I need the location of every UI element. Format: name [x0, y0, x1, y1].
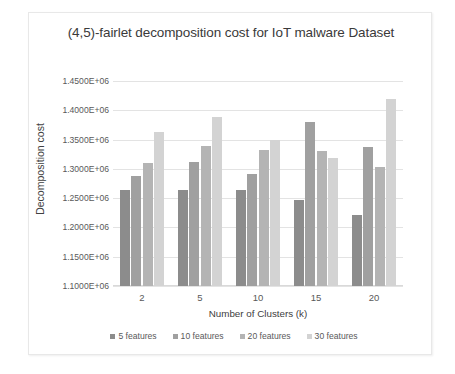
legend-swatch-icon [240, 334, 245, 339]
y-axis-tick-label: 1.1500E+06 [29, 252, 109, 262]
bar[interactable] [189, 162, 199, 286]
bar[interactable] [352, 215, 362, 286]
y-axis-tick-label: 1.1000E+06 [29, 281, 109, 291]
bar-group: 2 [120, 81, 165, 286]
legend-swatch-icon [307, 334, 312, 339]
y-axis-tick-label: 1.3500E+06 [29, 135, 109, 145]
x-axis-tick-label: 15 [311, 292, 322, 303]
legend-label: 20 features [248, 331, 291, 341]
bar[interactable] [375, 167, 385, 286]
legend-item[interactable]: 10 features [173, 331, 224, 341]
bar[interactable] [236, 190, 246, 286]
x-axis-tick-label: 5 [197, 292, 202, 303]
legend-swatch-icon [173, 334, 178, 339]
bar[interactable] [178, 190, 188, 286]
bar-group: 10 [236, 81, 281, 286]
legend-item[interactable]: 5 features [110, 331, 156, 341]
bar[interactable] [143, 163, 153, 286]
y-axis-tick-label: 1.2500E+06 [29, 193, 109, 203]
bar[interactable] [259, 150, 269, 286]
y-axis-tick-label: 1.2000E+06 [29, 222, 109, 232]
legend-item[interactable]: 30 features [307, 331, 358, 341]
bar[interactable] [363, 147, 373, 286]
gridline [113, 286, 403, 287]
bar[interactable] [317, 151, 327, 286]
bar[interactable] [294, 200, 304, 286]
y-axis-tick-label: 1.3000E+06 [29, 164, 109, 174]
bar[interactable] [328, 158, 338, 286]
bar-group: 5 [178, 81, 223, 286]
legend-item[interactable]: 20 features [240, 331, 291, 341]
bar[interactable] [201, 146, 211, 286]
x-axis-title: Number of Clusters (k) [113, 308, 403, 319]
bar[interactable] [154, 132, 164, 286]
legend-swatch-icon [110, 334, 115, 339]
plot-area: 1.4500E+061.4000E+061.3500E+061.3000E+06… [113, 81, 403, 286]
legend-label: 10 features [181, 331, 224, 341]
x-axis-tick-label: 20 [369, 292, 380, 303]
bar[interactable] [131, 176, 141, 286]
bar[interactable] [270, 140, 280, 286]
bar[interactable] [212, 117, 222, 286]
bar-group: 15 [294, 81, 339, 286]
y-axis-tick-label: 1.4500E+06 [29, 76, 109, 86]
bar[interactable] [120, 190, 130, 286]
bar-groups: 25101520 [113, 81, 403, 286]
legend-label: 30 features [315, 331, 358, 341]
bar[interactable] [386, 99, 396, 286]
x-axis-tick-label: 2 [139, 292, 144, 303]
plot-wrapper: Decomposition cost 1.4500E+061.4000E+061… [29, 13, 433, 356]
x-axis-tick-label: 10 [253, 292, 264, 303]
bar-group: 20 [352, 81, 397, 286]
y-axis-tick-label: 1.4000E+06 [29, 105, 109, 115]
chart-card: (4,5)-fairlet decomposition cost for IoT… [28, 12, 432, 355]
legend-label: 5 features [118, 331, 156, 341]
bar[interactable] [305, 122, 315, 286]
chart-legend: 5 features10 features20 features30 featu… [69, 331, 399, 341]
bar[interactable] [247, 174, 257, 286]
